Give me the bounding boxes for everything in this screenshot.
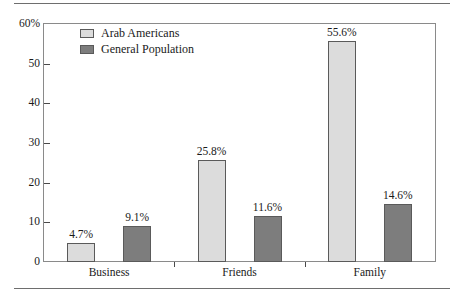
x-axis-category-label-friends: Friends [190,266,290,279]
legend-item: Arab Americans [80,26,194,41]
bar-business-general-population [123,226,151,262]
bar-friends-arab-americans [198,160,226,262]
top-horizontal-rule [14,3,450,4]
bar-family-general-population [384,204,412,262]
y-axis: 0102030405060% [0,23,40,262]
y-axis-tick-label: 60% [6,18,40,30]
y-axis-tick-label: 50 [6,58,40,70]
y-axis-tick-label: 20 [6,177,40,189]
bar-family-arab-americans [328,41,356,262]
x-axis-tick-mark [174,262,175,267]
bar-value-label: 14.6% [372,189,424,201]
bar-business-arab-americans [67,243,95,262]
dark-gray-swatch [80,45,94,54]
y-axis-tick-label: 0 [6,256,40,268]
y-axis-tick-label: 40 [6,97,40,109]
legend-item-label: General Population [101,43,194,56]
y-axis-tick-label: 10 [6,216,40,228]
chart-legend: Arab AmericansGeneral Population [80,26,194,58]
bar-value-label: 4.7% [55,228,107,240]
x-axis-category-label-business: Business [59,266,159,279]
bar-friends-general-population [254,216,282,262]
x-axis-tick-mark [305,262,306,267]
x-axis-category-label-family: Family [320,266,420,279]
y-axis-tick-label: 30 [6,137,40,149]
light-gray-swatch [80,29,94,38]
bar-value-label: 11.6% [242,201,294,213]
legend-item-label: Arab Americans [101,27,179,40]
bar-value-label: 55.6% [316,26,368,38]
bar-chart-figure: 0102030405060% 4.7%9.1%25.8%11.6%55.6%14… [0,0,464,295]
bottom-horizontal-rule [14,288,450,289]
plot-area: 4.7%9.1%25.8%11.6%55.6%14.6% [44,24,435,262]
bar-value-label: 9.1% [111,211,163,223]
bar-value-label: 25.8% [186,145,238,157]
legend-item: General Population [80,42,194,57]
